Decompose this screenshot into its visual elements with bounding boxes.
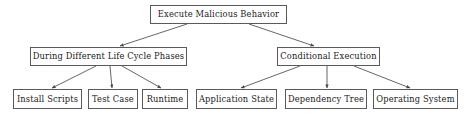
node-during-different-life-cycle-phases[interactable]: During Different Life Cycle Phases bbox=[30, 47, 187, 66]
edge-branch-right-to-application-state bbox=[241, 66, 300, 88]
node-application-state[interactable]: Application State bbox=[196, 89, 277, 109]
node-dependency-tree[interactable]: Dependency Tree bbox=[285, 89, 367, 109]
node-test-case[interactable]: Test Case bbox=[88, 89, 138, 109]
node-label: Test Case bbox=[92, 95, 134, 103]
node-operating-system[interactable]: Operating System bbox=[373, 89, 458, 109]
edge-branch-left-to-install-scripts bbox=[52, 66, 96, 88]
node-install-scripts[interactable]: Install Scripts bbox=[13, 89, 82, 109]
edge-root-to-branch-left bbox=[120, 24, 187, 46]
node-label: Execute Malicious Behavior bbox=[158, 10, 279, 18]
node-label: Dependency Tree bbox=[288, 95, 364, 103]
node-execute-malicious-behavior[interactable]: Execute Malicious Behavior bbox=[150, 5, 287, 24]
node-label: Application State bbox=[199, 95, 274, 103]
node-label: Runtime bbox=[147, 95, 184, 103]
node-runtime[interactable]: Runtime bbox=[142, 89, 188, 109]
node-conditional-execution[interactable]: Conditional Execution bbox=[277, 47, 380, 66]
attack-tree-diagram: Execute Malicious Behavior During Differ… bbox=[0, 0, 476, 117]
edge-branch-right-to-operating-system bbox=[354, 66, 410, 88]
node-label: During Different Life Cycle Phases bbox=[33, 52, 185, 60]
node-label: Operating System bbox=[376, 95, 454, 103]
node-label: Conditional Execution bbox=[280, 52, 376, 60]
edge-branch-left-to-test-case bbox=[110, 66, 112, 88]
node-label: Install Scripts bbox=[17, 95, 78, 103]
edge-branch-left-to-runtime bbox=[122, 66, 161, 88]
edge-root-to-branch-right bbox=[249, 24, 314, 46]
